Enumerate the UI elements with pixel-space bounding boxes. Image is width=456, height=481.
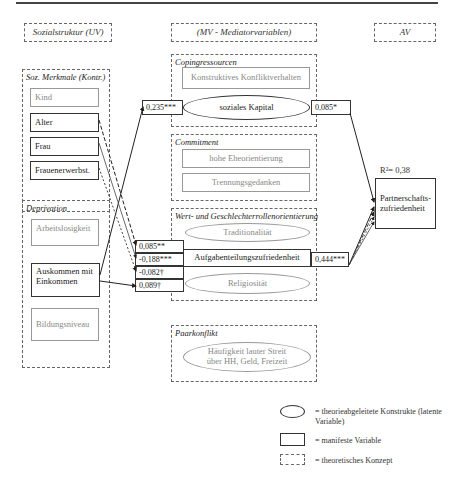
legend-ellipse-text: = theorieabgeleitete Konstrukte (latente…: [315, 407, 445, 426]
legend-dashed-symbol: [280, 454, 305, 465]
legend-dashed-text: = theoretisches Konzept: [315, 456, 392, 466]
legend-ellipse-symbol: [280, 405, 305, 418]
legend-box-symbol: [280, 433, 305, 446]
legend-box-text: = manifeste Variable: [315, 436, 381, 446]
